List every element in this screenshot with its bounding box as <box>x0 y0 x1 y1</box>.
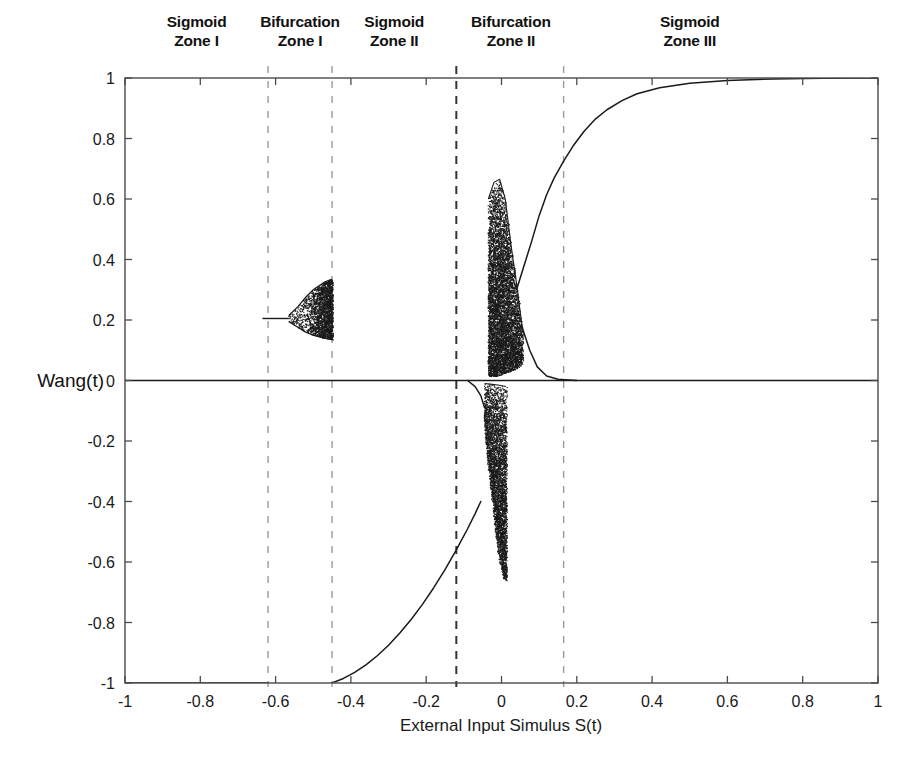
chaos-point <box>491 348 492 349</box>
chaos-point <box>491 325 492 326</box>
chaos-point <box>505 544 506 545</box>
chaos-point <box>506 431 507 432</box>
chaos-point <box>500 226 501 227</box>
chaos-point <box>489 356 490 357</box>
chaos-point <box>497 184 498 185</box>
chaos-point <box>515 367 516 368</box>
chaos-point <box>499 443 500 444</box>
chaos-point <box>518 331 519 332</box>
chaos-point <box>504 415 505 416</box>
chaos-point <box>497 293 498 294</box>
chaos-point <box>502 208 503 209</box>
chaos-point <box>326 326 327 327</box>
chaos-point <box>504 418 505 419</box>
chaos-point <box>504 246 505 247</box>
chaos-point <box>493 456 494 457</box>
chaos-point <box>503 332 504 333</box>
chaos-point <box>312 334 313 335</box>
chaos-point <box>494 208 495 209</box>
plot-canvas: -1-0.8-0.6-0.4-0.200.20.40.60.81-1-0.8-0… <box>0 0 902 779</box>
chaos-point <box>490 222 491 223</box>
chaos-point <box>487 452 488 453</box>
x-tick-label: 0 <box>497 693 506 710</box>
chaos-point <box>492 448 493 449</box>
chaos-point <box>506 269 507 270</box>
chaos-point <box>489 343 490 344</box>
chaos-point <box>500 491 501 492</box>
chaos-point <box>498 441 499 442</box>
chaos-point <box>499 439 500 440</box>
chaos-point <box>494 308 495 309</box>
chaos-point <box>495 273 496 274</box>
chaos-point <box>512 362 513 363</box>
chaos-point <box>497 348 498 349</box>
chaos-point <box>492 265 493 266</box>
chaos-point <box>485 404 486 405</box>
chaos-point <box>495 321 496 322</box>
chaos-point <box>492 385 493 386</box>
chaos-point <box>521 364 522 365</box>
chaos-point <box>491 399 492 400</box>
chaos-point <box>488 264 489 265</box>
chaos-point <box>323 316 324 317</box>
chaos-point <box>496 183 497 184</box>
chaos-point <box>488 424 489 425</box>
chaos-point <box>510 299 511 300</box>
chaos-point <box>502 410 503 411</box>
chaos-point <box>509 364 510 365</box>
chaos-point <box>331 330 332 331</box>
chaos-point <box>498 331 499 332</box>
chaos-point <box>323 295 324 296</box>
chaos-point <box>493 436 494 437</box>
chaos-point <box>505 517 506 518</box>
chaos-point <box>305 305 306 306</box>
chaos-point <box>518 315 519 316</box>
chaos-point <box>494 249 495 250</box>
chaos-point <box>498 356 499 357</box>
chaos-point <box>509 329 510 330</box>
chaos-point <box>496 360 497 361</box>
chaos-point <box>514 361 515 362</box>
chaos-point <box>493 509 494 510</box>
chaos-point <box>506 408 507 409</box>
chaos-point <box>495 281 496 282</box>
chaos-point <box>490 410 491 411</box>
chaos-point <box>498 186 499 187</box>
chaos-point <box>492 233 493 234</box>
chaos-point <box>491 376 492 377</box>
chaos-point <box>310 323 311 324</box>
chaos-point <box>490 261 491 262</box>
chaos-point <box>500 435 501 436</box>
chaos-point <box>312 307 313 308</box>
chaos-point <box>321 297 322 298</box>
chaos-point <box>493 496 494 497</box>
chaos-point <box>325 336 326 337</box>
chaos-point <box>494 213 495 214</box>
chaos-point <box>508 312 509 313</box>
chaos-point <box>488 464 489 465</box>
chaos-point <box>499 255 500 256</box>
chaos-point <box>503 396 504 397</box>
chaos-point <box>504 220 505 221</box>
chaos-point <box>495 331 496 332</box>
chaos-point <box>327 333 328 334</box>
chaos-point <box>505 313 506 314</box>
chaos-point <box>306 308 307 309</box>
chaos-point <box>502 224 503 225</box>
chaos-point <box>510 307 511 308</box>
chaos-point <box>489 394 490 395</box>
chaos-point <box>328 333 329 334</box>
chaos-point <box>503 210 504 211</box>
chaos-point <box>506 470 507 471</box>
chaos-point <box>509 349 510 350</box>
chaos-point <box>332 298 333 299</box>
chaos-point <box>506 221 507 222</box>
chaos-point <box>519 323 520 324</box>
chaos-point <box>488 392 489 393</box>
chaos-point <box>511 303 512 304</box>
chaos-point <box>500 354 501 355</box>
chaos-point <box>517 299 518 300</box>
chaos-point <box>328 310 329 311</box>
chaos-point <box>504 549 505 550</box>
chaos-point <box>510 355 511 356</box>
